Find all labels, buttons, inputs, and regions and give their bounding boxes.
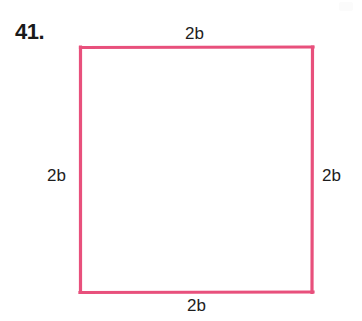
square-edge-top: [81, 47, 314, 48]
side-label-left: 2b: [47, 167, 66, 184]
figure-page: 41. 2b 2b 2b 2b: [0, 0, 362, 321]
side-label-right: 2b: [322, 167, 341, 184]
square-edge-bottom: [80, 292, 313, 293]
square-figure: [0, 0, 362, 321]
square-edge-right: [312, 47, 313, 293]
side-label-top: 2b: [185, 25, 204, 42]
square-outline: [80, 47, 313, 293]
side-label-bottom: 2b: [187, 297, 206, 314]
